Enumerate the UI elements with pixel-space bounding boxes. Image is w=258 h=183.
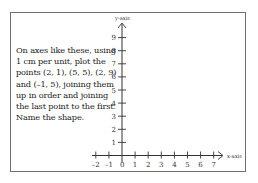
x-tick-label: 3 bbox=[159, 161, 163, 169]
x-tick-label: 2 bbox=[146, 161, 150, 169]
x-axis: x-axis –2–101234567 bbox=[92, 152, 242, 169]
y-tick-label: 8 bbox=[112, 47, 116, 55]
x-tick-label: 1 bbox=[133, 161, 137, 169]
x-tick-label: 6 bbox=[198, 161, 203, 169]
y-axis-label: y-axis bbox=[114, 15, 130, 22]
y-tick-label: 6 bbox=[112, 73, 117, 81]
y-tick-label: 1 bbox=[112, 139, 116, 147]
x-axis-label: x-axis bbox=[227, 153, 242, 159]
y-axis: y-axis 123456789 bbox=[112, 15, 131, 162]
x-tick-label: –1 bbox=[105, 161, 113, 169]
y-tick-label: 2 bbox=[112, 126, 116, 134]
coordinate-axes: x-axis –2–101234567 y-axis 123456789 bbox=[0, 0, 258, 183]
y-tick-label: 7 bbox=[112, 60, 116, 68]
x-tick-label: 4 bbox=[172, 161, 177, 169]
x-tick-label: –2 bbox=[92, 161, 100, 169]
y-tick-label: 3 bbox=[112, 113, 116, 121]
y-tick-label: 4 bbox=[112, 100, 117, 108]
x-tick-label: 5 bbox=[185, 161, 189, 169]
y-tick-label: 9 bbox=[112, 34, 116, 42]
y-tick-label: 5 bbox=[112, 87, 116, 95]
x-tick-label: 7 bbox=[211, 161, 215, 169]
